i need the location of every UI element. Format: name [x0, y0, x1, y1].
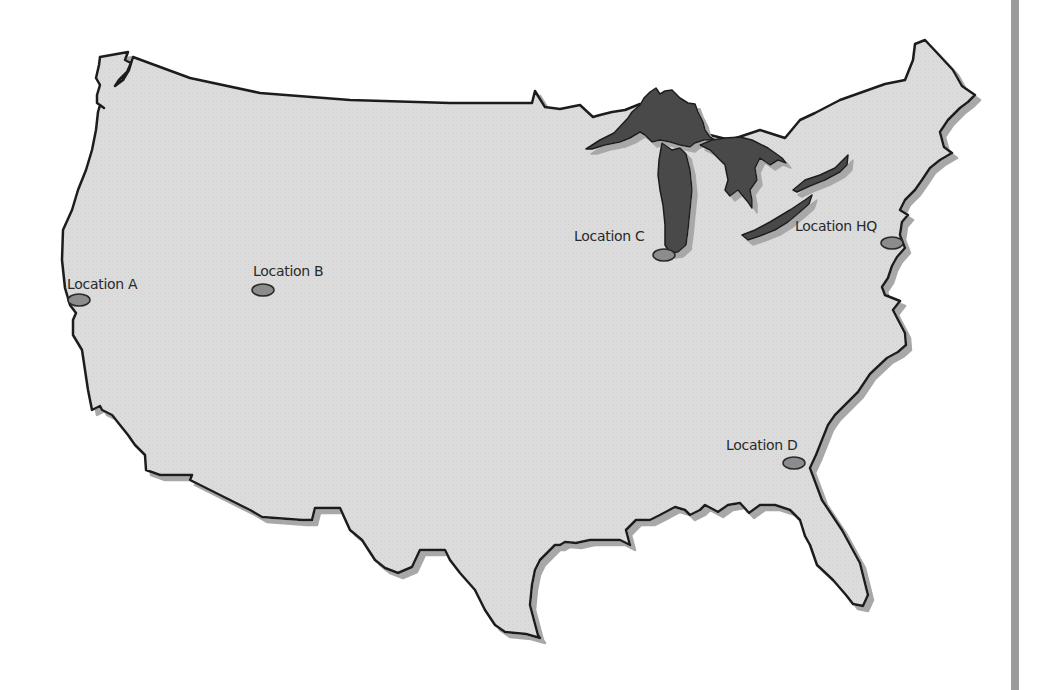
us-map-graphic — [0, 0, 1038, 690]
label-location-b: Location B — [253, 264, 323, 278]
label-location-hq: Location HQ — [795, 219, 877, 233]
marker-location-a[interactable] — [68, 294, 90, 306]
label-location-c: Location C — [574, 229, 644, 243]
label-location-d: Location D — [726, 438, 797, 452]
us-map: Location A Location B Location C Locatio… — [0, 0, 1038, 690]
marker-location-hq[interactable] — [881, 237, 903, 249]
marker-location-d[interactable] — [783, 457, 805, 469]
label-location-a: Location A — [67, 277, 137, 291]
side-border-bar — [1011, 0, 1019, 690]
us-landmass — [62, 40, 975, 638]
marker-location-b[interactable] — [252, 284, 274, 296]
marker-location-c[interactable] — [653, 249, 675, 261]
